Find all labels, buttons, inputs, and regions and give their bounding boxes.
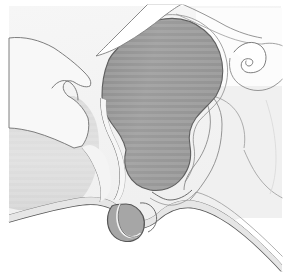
figure-root: Sagittal anatomical illustration Graysca… [0, 0, 287, 276]
anatomical-illustration-svg [0, 0, 287, 276]
